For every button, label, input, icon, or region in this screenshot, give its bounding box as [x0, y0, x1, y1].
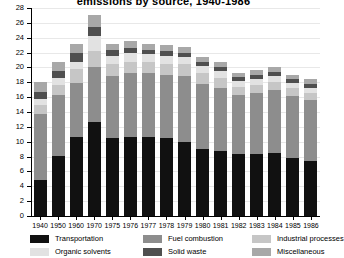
bar-segment[interactable]	[34, 114, 47, 180]
bar-segment[interactable]	[178, 142, 191, 216]
bar-segment[interactable]	[34, 82, 47, 92]
bar-column[interactable]	[268, 8, 281, 216]
bar-segment[interactable]	[52, 156, 65, 216]
bar-segment[interactable]	[268, 72, 281, 76]
bar-segment[interactable]	[106, 64, 119, 76]
bar-segment[interactable]	[214, 71, 227, 78]
bar-segment[interactable]	[160, 64, 173, 75]
bar-segment[interactable]	[106, 44, 119, 51]
bar-column[interactable]	[178, 8, 191, 216]
bar-segment[interactable]	[160, 138, 173, 216]
bar-segment[interactable]	[70, 53, 83, 61]
bar-column[interactable]	[124, 8, 137, 216]
bar-segment[interactable]	[250, 154, 263, 216]
bar-segment[interactable]	[124, 73, 137, 137]
bar-segment[interactable]	[34, 99, 47, 105]
bar-segment[interactable]	[142, 44, 155, 50]
bar-segment[interactable]	[70, 69, 83, 83]
bar-column[interactable]	[304, 8, 317, 216]
bar-segment[interactable]	[160, 75, 173, 138]
bar-segment[interactable]	[286, 158, 299, 216]
bar-segment[interactable]	[232, 77, 245, 81]
bar-segment[interactable]	[142, 54, 155, 62]
bar-column[interactable]	[88, 8, 101, 216]
bar-segment[interactable]	[196, 73, 209, 84]
bar-segment[interactable]	[70, 83, 83, 137]
bar-segment[interactable]	[178, 76, 191, 142]
bar-segment[interactable]	[268, 76, 281, 82]
bar-column[interactable]	[286, 8, 299, 216]
bar-segment[interactable]	[304, 79, 317, 83]
bar-segment[interactable]	[70, 62, 83, 69]
bar-segment[interactable]	[214, 67, 227, 71]
bar-segment[interactable]	[304, 161, 317, 216]
bar-segment[interactable]	[88, 36, 101, 52]
bar-segment[interactable]	[34, 92, 47, 99]
bar-segment[interactable]	[268, 82, 281, 91]
bar-segment[interactable]	[106, 50, 119, 55]
bar-segment[interactable]	[286, 83, 299, 88]
bar-column[interactable]	[160, 8, 173, 216]
bar-segment[interactable]	[52, 71, 65, 78]
bar-segment[interactable]	[124, 62, 137, 74]
bar-segment[interactable]	[214, 62, 227, 67]
bar-segment[interactable]	[124, 137, 137, 216]
bar-segment[interactable]	[214, 88, 227, 151]
bar-segment[interactable]	[34, 105, 47, 115]
bar-segment[interactable]	[52, 95, 65, 156]
bar-segment[interactable]	[286, 96, 299, 158]
bar-segment[interactable]	[232, 95, 245, 154]
bar-segment[interactable]	[88, 67, 101, 121]
bar-segment[interactable]	[142, 137, 155, 216]
bar-segment[interactable]	[160, 56, 173, 64]
bar-segment[interactable]	[70, 137, 83, 216]
bar-segment[interactable]	[268, 90, 281, 152]
bar-segment[interactable]	[124, 48, 137, 53]
bar-segment[interactable]	[232, 81, 245, 87]
bar-segment[interactable]	[232, 154, 245, 216]
bar-segment[interactable]	[52, 78, 65, 85]
bar-column[interactable]	[34, 8, 47, 216]
bar-segment[interactable]	[178, 53, 191, 57]
bar-segment[interactable]	[142, 62, 155, 73]
bar-segment[interactable]	[178, 57, 191, 64]
bar-segment[interactable]	[88, 27, 101, 36]
bar-column[interactable]	[232, 8, 245, 216]
bar-segment[interactable]	[286, 75, 299, 79]
bar-segment[interactable]	[268, 67, 281, 71]
bar-segment[interactable]	[106, 138, 119, 216]
bar-segment[interactable]	[88, 51, 101, 67]
bar-segment[interactable]	[250, 93, 263, 154]
bar-segment[interactable]	[304, 88, 317, 93]
bar-segment[interactable]	[196, 66, 209, 73]
bar-segment[interactable]	[304, 100, 317, 161]
bar-segment[interactable]	[34, 180, 47, 216]
bar-segment[interactable]	[142, 50, 155, 54]
bar-segment[interactable]	[178, 47, 191, 53]
bar-segment[interactable]	[250, 79, 263, 85]
bar-column[interactable]	[106, 8, 119, 216]
bar-segment[interactable]	[196, 57, 209, 62]
bar-segment[interactable]	[124, 41, 137, 48]
bar-segment[interactable]	[250, 85, 263, 93]
bar-column[interactable]	[214, 8, 227, 216]
bar-segment[interactable]	[178, 64, 191, 75]
bar-segment[interactable]	[106, 56, 119, 65]
bar-column[interactable]	[196, 8, 209, 216]
bar-segment[interactable]	[214, 78, 227, 88]
bar-segment[interactable]	[286, 79, 299, 83]
bar-segment[interactable]	[304, 84, 317, 88]
bar-segment[interactable]	[124, 53, 137, 61]
bar-column[interactable]	[70, 8, 83, 216]
bar-segment[interactable]	[88, 122, 101, 216]
bar-segment[interactable]	[250, 70, 263, 74]
bar-segment[interactable]	[52, 62, 65, 71]
bar-column[interactable]	[142, 8, 155, 216]
bar-segment[interactable]	[196, 84, 209, 149]
bar-segment[interactable]	[142, 73, 155, 137]
bar-segment[interactable]	[232, 73, 245, 77]
bar-column[interactable]	[250, 8, 263, 216]
bar-column[interactable]	[52, 8, 65, 216]
bar-segment[interactable]	[52, 85, 65, 95]
bar-segment[interactable]	[160, 51, 173, 55]
